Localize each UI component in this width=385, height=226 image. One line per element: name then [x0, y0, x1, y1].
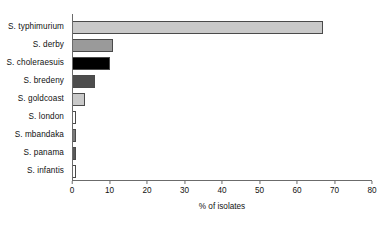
bar-row — [72, 36, 372, 54]
bar-row — [72, 144, 372, 162]
x-axis: 01020304050607080 — [72, 181, 372, 201]
x-tick-mark — [146, 181, 147, 184]
category-label: S. london — [0, 108, 68, 126]
category-label: S. mbandaka — [0, 126, 68, 144]
category-label: S. bredeny — [0, 72, 68, 90]
category-label: S. choleraesuis — [0, 54, 68, 72]
x-tick: 30 — [180, 181, 189, 195]
x-tick-mark — [259, 181, 260, 184]
x-tick-label: 70 — [330, 187, 339, 195]
x-tick-label: 60 — [292, 187, 301, 195]
x-tick-label: 50 — [255, 187, 264, 195]
bar-chart: S. typhimurium S. derby S. choleraesuis … — [0, 0, 385, 226]
bar-row — [72, 90, 372, 108]
x-tick-mark — [221, 181, 222, 184]
bar-row — [72, 126, 372, 144]
x-tick: 70 — [330, 181, 339, 195]
x-tick-mark — [334, 181, 335, 184]
x-tick-mark — [72, 181, 73, 184]
category-label: S. infantis — [0, 162, 68, 180]
category-axis: S. typhimurium S. derby S. choleraesuis … — [0, 18, 68, 180]
x-tick-label: 30 — [180, 187, 189, 195]
x-tick: 20 — [142, 181, 151, 195]
x-tick-label: 80 — [367, 187, 376, 195]
bar-row — [72, 162, 372, 180]
x-tick: 60 — [292, 181, 301, 195]
category-label: S. derby — [0, 36, 68, 54]
x-tick: 50 — [255, 181, 264, 195]
x-tick-mark — [184, 181, 185, 184]
x-tick-mark — [371, 181, 372, 184]
bar-series — [72, 18, 372, 180]
x-tick-mark — [109, 181, 110, 184]
category-label: S. goldcoast — [0, 90, 68, 108]
bar — [72, 93, 85, 106]
x-tick-label: 10 — [105, 187, 114, 195]
bar-row — [72, 72, 372, 90]
bar-row — [72, 54, 372, 72]
category-label: S. panama — [0, 144, 68, 162]
bar-row — [72, 108, 372, 126]
bar — [72, 57, 110, 70]
category-label: S. typhimurium — [0, 18, 68, 36]
bar — [72, 39, 113, 52]
bar — [72, 75, 95, 88]
x-tick-label: 0 — [70, 187, 75, 195]
bar — [72, 21, 323, 34]
x-tick: 40 — [217, 181, 226, 195]
x-axis-title: % of isolates — [72, 202, 372, 211]
x-tick-label: 20 — [142, 187, 151, 195]
x-tick-label: 40 — [217, 187, 226, 195]
x-tick-mark — [296, 181, 297, 184]
bar-row — [72, 18, 372, 36]
y-axis-line — [72, 14, 73, 181]
x-tick: 0 — [70, 181, 75, 195]
plot-area — [72, 18, 372, 180]
x-tick: 10 — [105, 181, 114, 195]
x-tick: 80 — [367, 181, 376, 195]
